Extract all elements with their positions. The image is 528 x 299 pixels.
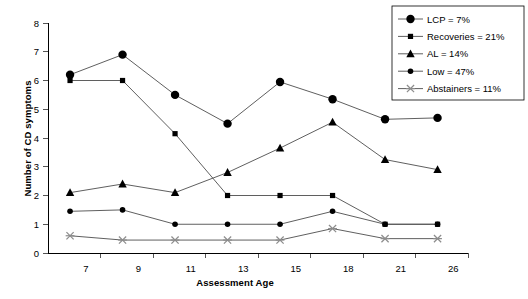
x-tick-label: 15: [291, 263, 302, 274]
data-point-marker: [118, 50, 126, 58]
x-tick-label: 13: [238, 263, 249, 274]
data-point-marker: [276, 78, 284, 86]
legend-marker: [408, 34, 413, 39]
data-point-marker: [66, 232, 75, 239]
data-point-marker: [118, 236, 127, 243]
legend-label: LCP = 7%: [427, 14, 470, 25]
data-point-marker: [172, 221, 178, 227]
x-tick-label: 26: [448, 263, 459, 274]
data-point-marker: [120, 78, 125, 83]
data-point-marker: [225, 193, 230, 198]
y-tick-label: 6: [34, 75, 39, 86]
x-axis-ticks: 79111315182126: [83, 253, 468, 274]
legend-label: Abstainers = 11%: [427, 83, 502, 94]
series-line: [70, 55, 438, 124]
x-tick-label: 7: [83, 263, 88, 274]
data-point-marker: [223, 168, 231, 176]
data-point-marker: [330, 209, 336, 215]
y-tick-label: 3: [34, 161, 39, 172]
data-series-layer: [66, 50, 442, 243]
data-point-marker: [276, 236, 285, 243]
series-line: [70, 122, 438, 192]
x-tick-label: 11: [186, 263, 196, 274]
data-point-marker: [172, 131, 177, 136]
data-point-marker: [330, 193, 335, 198]
data-point-marker: [328, 118, 336, 126]
data-point-marker: [171, 236, 180, 243]
line-chart-plot: 012345678 79111315182126 LCP = 7%Recover…: [0, 0, 528, 299]
data-point-marker: [67, 209, 73, 215]
data-point-marker: [433, 114, 441, 122]
data-series: [66, 50, 442, 127]
data-series: [66, 225, 442, 244]
x-tick-label: 9: [136, 263, 141, 274]
legend-marker: [406, 15, 414, 23]
y-tick-label: 5: [34, 104, 39, 115]
data-point-marker: [328, 95, 336, 103]
chart-figure: Number of CD symptoms Assessment Age 012…: [0, 0, 528, 299]
y-tick-label: 8: [34, 18, 39, 29]
data-point-marker: [277, 221, 283, 227]
chart-legend: LCP = 7%Recoveries = 21%AL = 14%Low = 47…: [392, 6, 524, 100]
series-line: [70, 210, 438, 224]
legend-marker: [408, 68, 414, 74]
data-point-marker: [277, 193, 282, 198]
data-point-marker: [171, 91, 179, 99]
y-tick-label: 4: [34, 133, 39, 144]
y-tick-label: 1: [34, 219, 39, 230]
data-series: [67, 207, 440, 227]
data-series: [67, 78, 440, 227]
data-point-marker: [223, 119, 231, 127]
data-point-marker: [381, 235, 390, 242]
data-series: [66, 118, 442, 196]
legend-label: Low = 47%: [427, 66, 475, 77]
x-tick-label: 18: [343, 263, 354, 274]
legend-label: Recoveries = 21%: [427, 31, 505, 42]
y-tick-label: 0: [34, 248, 39, 259]
series-line: [70, 81, 438, 225]
data-point-marker: [118, 180, 126, 188]
data-point-marker: [120, 207, 126, 213]
y-axis-ticks: 012345678: [34, 18, 48, 259]
y-tick-label: 2: [34, 190, 39, 201]
data-point-marker: [328, 225, 337, 232]
y-tick-label: 7: [34, 46, 39, 57]
data-point-marker: [435, 221, 441, 227]
x-tick-label: 21: [396, 263, 407, 274]
data-point-marker: [276, 144, 284, 152]
data-point-marker: [433, 235, 442, 242]
data-point-marker: [223, 236, 232, 243]
data-point-marker: [225, 221, 231, 227]
data-point-marker: [381, 155, 389, 163]
data-point-marker: [382, 221, 388, 227]
data-point-marker: [381, 115, 389, 123]
legend-label: AL = 14%: [427, 48, 469, 59]
data-point-marker: [67, 78, 72, 83]
data-point-marker: [66, 71, 74, 79]
